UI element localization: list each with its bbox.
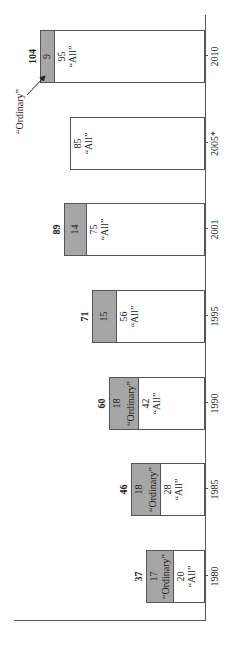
x-tick <box>205 143 208 144</box>
x-tick-label: 1980 <box>209 547 220 607</box>
x-tick <box>205 576 208 577</box>
x-tick <box>205 56 208 57</box>
x-tick-label: 2005* <box>209 114 220 174</box>
x-tick <box>205 229 208 230</box>
x-tick <box>205 403 208 404</box>
x-tick-label: 1990 <box>209 374 220 434</box>
x-tick <box>205 316 208 317</box>
x-tick <box>205 489 208 490</box>
x-tick-label: 2001 <box>209 200 220 260</box>
x-tick-label: 2010 <box>209 27 220 87</box>
arrow-icon <box>0 0 235 649</box>
x-tick-label: 1985 <box>209 460 220 520</box>
x-tick-label: 1995 <box>209 287 220 347</box>
chart-stage: 20“All”17“Ordinary”3728“All”18“Ordinary”… <box>0 0 235 649</box>
